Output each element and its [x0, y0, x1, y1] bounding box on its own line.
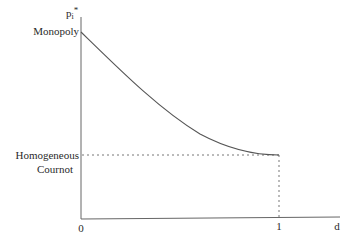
price-curve: [81, 32, 279, 155]
cournot-label: Cournot: [37, 163, 73, 175]
x-tick-1: 1: [276, 220, 282, 232]
x-tick-0: 0: [78, 222, 84, 234]
x-axis: [81, 217, 340, 219]
homogeneous-label: Homogeneous: [15, 149, 79, 161]
x-axis-label: d: [334, 220, 340, 232]
y-axis-label: pi*: [66, 5, 79, 21]
chart: pi* Monopoly Homogeneous Cournot 0 1 d: [0, 0, 356, 244]
monopoly-label: Monopoly: [33, 25, 79, 37]
